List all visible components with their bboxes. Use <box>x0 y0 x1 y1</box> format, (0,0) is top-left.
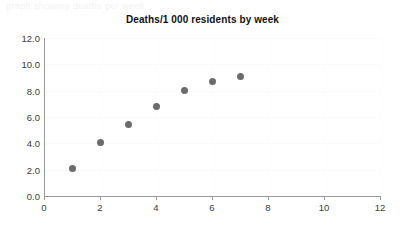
x-axis-tick-label: 2 <box>97 202 102 213</box>
y-axis-tick-label: 6.0 <box>8 112 40 123</box>
gridline-horizontal <box>44 64 380 65</box>
chart-figure: graph showing deaths per week Deaths/1 0… <box>0 0 405 233</box>
data-point <box>237 73 244 80</box>
x-axis-tick-label: 8 <box>265 202 270 213</box>
y-axis-tick-label: 10.0 <box>8 59 40 70</box>
y-axis-tick-labels: 0.02.04.06.08.010.012.0 <box>4 0 40 233</box>
x-axis-tick-label: 6 <box>209 202 214 213</box>
x-axis-tick <box>212 196 213 200</box>
gridline-vertical <box>380 38 381 196</box>
gridline-horizontal <box>44 117 380 118</box>
y-axis-tick-label: 12.0 <box>8 33 40 44</box>
gridline-horizontal <box>44 91 380 92</box>
x-axis-tick <box>268 196 269 200</box>
x-axis-tick-label: 4 <box>153 202 158 213</box>
gridline-horizontal <box>44 143 380 144</box>
plot-area <box>44 38 380 196</box>
x-axis-tick <box>44 196 45 200</box>
y-axis-tick-label: 2.0 <box>8 164 40 175</box>
x-axis-tick <box>100 196 101 200</box>
data-point <box>209 78 216 85</box>
x-axis-tick-label: 10 <box>319 202 330 213</box>
data-point <box>97 139 104 146</box>
x-axis-tick <box>156 196 157 200</box>
y-axis-tick-label: 8.0 <box>8 85 40 96</box>
clipped-caption-strip: graph showing deaths per week <box>0 0 405 12</box>
x-axis-tick <box>324 196 325 200</box>
x-axis-tick-label: 0 <box>41 202 46 213</box>
y-axis-tick-label: 0.0 <box>8 191 40 202</box>
y-axis-tick-label: 4.0 <box>8 138 40 149</box>
chart-title: Deaths/1 000 residents by week <box>0 14 405 25</box>
data-point <box>181 87 188 94</box>
data-point <box>125 121 132 128</box>
gridline-horizontal <box>44 38 380 39</box>
x-axis-tick <box>380 196 381 200</box>
y-axis-line <box>44 38 45 197</box>
data-point <box>153 103 160 110</box>
gridline-horizontal <box>44 170 380 171</box>
x-axis-tick-label: 12 <box>375 202 386 213</box>
data-point <box>69 165 76 172</box>
